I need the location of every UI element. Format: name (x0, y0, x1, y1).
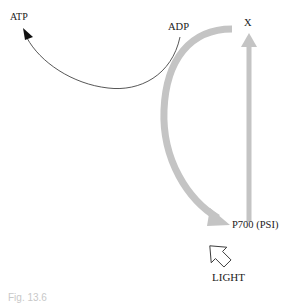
x-to-p700-curve (164, 29, 232, 218)
figure-caption: Fig. 13.6 (8, 292, 47, 303)
atp-label: ATP (10, 11, 28, 22)
p700-arrowhead-icon (207, 208, 230, 226)
adp-to-atp-curve (27, 37, 180, 89)
light-label: LIGHT (212, 271, 245, 283)
x-label: X (244, 17, 252, 28)
x-arrowhead-icon (241, 33, 257, 47)
atp-arrowhead-icon (23, 28, 33, 40)
light-arrow-icon (202, 238, 235, 271)
adp-label: ADP (168, 21, 189, 32)
p700-label: P700 (PSI) (232, 219, 278, 230)
